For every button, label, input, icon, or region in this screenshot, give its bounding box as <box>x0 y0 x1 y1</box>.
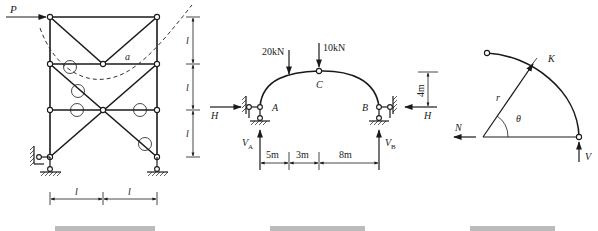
svg-text:K: K <box>547 53 556 64</box>
load-20kn-arrow: 20kN <box>262 46 289 74</box>
angle-theta-arc <box>497 116 508 137</box>
svg-text:C: C <box>316 79 323 90</box>
reaction-va-arrow: VA <box>242 130 260 170</box>
svg-text:l: l <box>128 186 131 197</box>
svg-text:VB: VB <box>385 137 396 151</box>
support-b-icon <box>369 96 397 125</box>
svg-text:20kN: 20kN <box>262 46 284 57</box>
arc-segment-figure: r θ K N V <box>454 50 593 231</box>
load-p-arrow: P <box>6 3 46 17</box>
svg-text:r: r <box>496 92 500 103</box>
svg-text:H: H <box>210 110 219 121</box>
svg-text:A: A <box>271 102 279 113</box>
svg-text:l: l <box>186 128 189 139</box>
svg-text:H: H <box>423 110 432 121</box>
svg-text:P: P <box>9 3 17 15</box>
shear-force-v-arrow: V <box>579 142 593 162</box>
diagram-stage: a P <box>0 0 598 231</box>
load-10kn-arrow: 10kN <box>319 42 345 67</box>
svg-text:B: B <box>362 102 368 113</box>
svg-text:3m: 3m <box>296 149 309 160</box>
member-cut-circles <box>64 61 152 151</box>
svg-text:l: l <box>186 35 189 46</box>
svg-text:5m: 5m <box>266 149 279 160</box>
hinge-c <box>316 68 321 73</box>
svg-text:l: l <box>186 82 189 93</box>
svg-text:N: N <box>454 122 463 133</box>
svg-text:4m: 4m <box>415 84 426 97</box>
caption-middle-cropped <box>270 226 365 231</box>
right-support-icon <box>147 157 168 176</box>
svg-text:10kN: 10kN <box>323 42 345 53</box>
svg-text:l: l <box>75 186 78 197</box>
member-a-label: a <box>125 51 130 62</box>
section-cut-dashed-curve <box>40 5 192 79</box>
thrust-h-left-arrow: H <box>210 107 241 121</box>
caption-right-cropped <box>470 226 555 231</box>
radius-arrow: r <box>483 58 537 137</box>
svg-text:8m: 8m <box>339 149 352 160</box>
reaction-vb-arrow: VB <box>379 130 396 170</box>
span-dimension: 5m 3m 8m <box>261 149 378 170</box>
horizontal-dimension: l l <box>50 186 157 205</box>
arch-figure: 20kN 10kN C <box>210 42 438 231</box>
svg-text:θ: θ <box>516 113 521 124</box>
svg-text:VA: VA <box>242 137 253 151</box>
caption-left-cropped <box>55 226 155 231</box>
svg-text:V: V <box>585 151 593 162</box>
truss-members <box>50 17 157 157</box>
rise-dimension: 4m <box>415 72 438 106</box>
vertical-dimension: l l l <box>186 17 200 157</box>
axial-force-n-arrow: N <box>454 122 476 137</box>
support-a-icon <box>242 96 270 125</box>
thrust-h-right-arrow: H <box>405 107 437 121</box>
truss-figure: a P <box>6 3 200 231</box>
quarter-arc <box>487 53 579 137</box>
